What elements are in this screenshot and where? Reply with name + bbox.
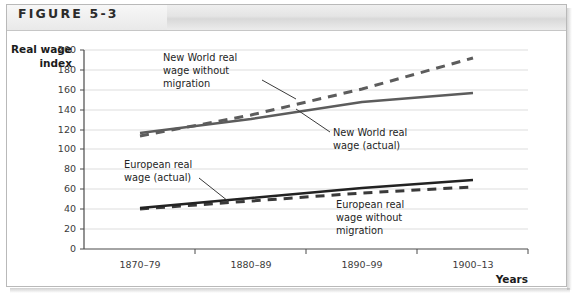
annotation-european-actual: European real wage (actual) xyxy=(124,159,192,183)
leader-line-new-world-without-migration xyxy=(262,80,296,99)
leader-line-european-actual xyxy=(199,178,228,201)
annotation-nw-actual-line2: wage (actual) xyxy=(333,140,400,151)
x-axis-ticks xyxy=(195,249,528,254)
x-tick-label-1890-99: 1890–99 xyxy=(341,259,382,270)
figure-container: FIGURE 5-3 xyxy=(0,0,581,301)
x-tick-label-1880-89: 1880–89 xyxy=(230,259,271,270)
chart-axes xyxy=(84,50,528,249)
annotation-nw-without-line1: New World real xyxy=(163,52,237,63)
y-tick-label-140: 140 xyxy=(58,104,76,115)
y-axis-tick-labels: 200 180 160 140 120 100 80 60 40 20 0 xyxy=(58,44,76,254)
y-tick-label-20: 20 xyxy=(64,223,76,234)
annotation-eu-actual-line1: European real xyxy=(124,159,192,170)
line-chart: 200 180 160 140 120 100 80 60 40 20 0 Re… xyxy=(0,31,567,286)
annotation-eu-actual-line2: wage (actual) xyxy=(124,172,191,183)
gridlines xyxy=(84,50,528,229)
x-tick-label-1870-79: 1870–79 xyxy=(119,259,160,270)
leader-line-new-world-actual xyxy=(296,109,330,132)
series-line-european-actual xyxy=(140,180,473,208)
annotation-eu-without-line3: migration xyxy=(336,225,383,236)
y-axis-title: Real wage index xyxy=(11,43,72,69)
annotation-eu-without-line2: wage without xyxy=(336,212,402,223)
y-tick-label-160: 160 xyxy=(58,84,76,95)
y-tick-label-0: 0 xyxy=(70,243,76,254)
chart-plot-area: 200 180 160 140 120 100 80 60 40 20 0 Re… xyxy=(0,31,567,286)
page-shadow-right xyxy=(567,8,572,290)
x-axis-tick-labels: 1870–79 1880–89 1890–99 1900–13 xyxy=(119,259,493,270)
series-line-european-without-migration xyxy=(140,187,473,209)
x-tick-label-1900-13: 1900–13 xyxy=(452,259,493,270)
y-tick-label-80: 80 xyxy=(64,163,76,174)
annotation-european-without-migration: European real wage without migration xyxy=(336,199,404,236)
page-shadow-bottom xyxy=(10,288,570,293)
y-tick-label-60: 60 xyxy=(64,183,76,194)
y-axis-title-line2: index xyxy=(40,57,73,69)
y-tick-label-120: 120 xyxy=(58,124,76,135)
annotation-nw-without-line3: migration xyxy=(163,78,210,89)
y-tick-label-40: 40 xyxy=(64,203,76,214)
annotation-eu-without-line1: European real xyxy=(336,199,404,210)
annotation-new-world-actual: New World real wage (actual) xyxy=(333,127,407,151)
annotation-leader-lines xyxy=(199,80,330,201)
y-tick-label-100: 100 xyxy=(58,143,76,154)
annotation-nw-actual-line1: New World real xyxy=(333,127,407,138)
annotation-new-world-without-migration: New World real wage without migration xyxy=(163,52,237,89)
y-axis-title-line1: Real wage xyxy=(11,43,72,55)
annotation-nw-without-line2: wage without xyxy=(163,65,229,76)
series-line-new-world-actual xyxy=(140,93,473,133)
figure-number-label: FIGURE 5-3 xyxy=(18,6,119,21)
x-axis-title: Years xyxy=(495,273,528,285)
